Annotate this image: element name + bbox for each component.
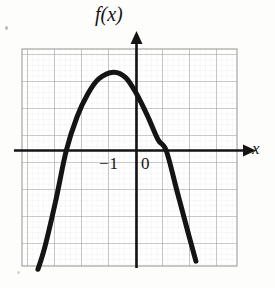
x-tick-label-zero: 0 xyxy=(141,155,150,172)
scan-speck xyxy=(5,26,8,30)
x-tick-label-minus-one: −1 xyxy=(99,155,119,172)
x-axis-label: x xyxy=(252,140,260,157)
scan-speck xyxy=(17,271,20,274)
parabola-plot xyxy=(0,0,275,288)
y-axis-arrowhead xyxy=(131,31,143,44)
graph-figure: f(x) x −1 0 xyxy=(0,0,275,288)
function-label: f(x) xyxy=(95,4,123,24)
